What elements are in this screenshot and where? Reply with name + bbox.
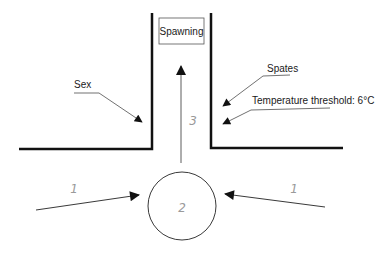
right-inflow-arrow: [225, 194, 325, 207]
spawning-box: Spawning: [159, 18, 204, 44]
right-channel-wall: [211, 13, 343, 148]
left-inflow-number: 1: [70, 182, 78, 196]
pool-number: 2: [178, 201, 186, 215]
right-inflow-number: 1: [290, 182, 298, 196]
spates-label: Spates: [267, 63, 298, 74]
left-inflow-arrow: [36, 195, 139, 210]
spawning-label: Spawning: [160, 26, 204, 37]
sex-arrow: [74, 93, 142, 122]
temperature-label: Temperature threshold: 6°C: [252, 95, 374, 106]
spawning-diagram: Spawning 3 2 1 1 Sex Spates Temperature …: [0, 0, 379, 258]
temperature-arrow: [223, 108, 330, 124]
upstream-number: 3: [189, 114, 197, 128]
sex-label: Sex: [74, 79, 91, 90]
